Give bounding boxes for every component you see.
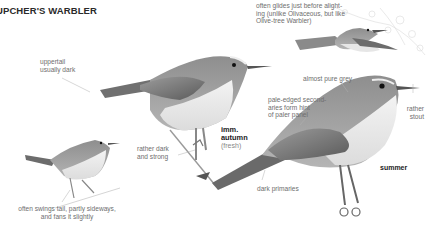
fresh-label: (fresh) [221, 142, 241, 150]
glide-line-1: often glides just before alight- [256, 2, 345, 10]
secondaries-line-3: of paler panel [268, 111, 326, 119]
legs-line-2: and strong [137, 153, 169, 161]
bill-line-2: stout [396, 113, 424, 121]
page-title: UPCHER'S WARBLER [0, 5, 97, 16]
secondaries-line-1: pale-edged second- [268, 96, 326, 104]
secondaries-annotation: pale-edged second- aries form hint of pa… [268, 96, 326, 119]
illustration-canvas [0, 0, 430, 225]
glide-line-2: ing (unlike Olivaceous, but like [256, 10, 345, 18]
legs-line-1: rather dark [137, 145, 169, 153]
secondaries-line-2: aries form hint [268, 104, 326, 112]
uppertail-line-2: usually dark [40, 66, 75, 74]
primaries-annotation: dark primaries [257, 185, 299, 193]
glide-annotation: often glides just before alight- ing (un… [256, 2, 345, 25]
almost-grey-annotation: almost pure grey [303, 75, 352, 83]
uppertail-line-1: uppertail [40, 58, 75, 66]
legs-annotation: rather dark and strong [137, 145, 169, 160]
tail-line-1: often swings tail, partly sideways, [2, 205, 132, 213]
tail-annotation: often swings tail, partly sideways, and … [2, 205, 132, 220]
summer-label: summer [380, 164, 407, 172]
bill-line-1: rather [396, 105, 424, 113]
flying-bird [295, 28, 398, 52]
glide-line-3: Olive-tree Warbler) [256, 17, 345, 25]
small-bird [25, 140, 120, 208]
uppertail-annotation: uppertail usually dark [40, 58, 75, 73]
bill-annotation: rather stout [396, 105, 424, 120]
tail-line-2: and fans it slightly [2, 213, 132, 221]
